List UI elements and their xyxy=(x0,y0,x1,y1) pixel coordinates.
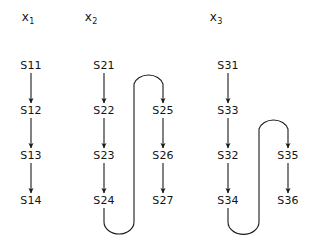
column-title-x2: x2 xyxy=(85,11,98,26)
node-S32: S32 xyxy=(216,150,240,162)
node-S25: S25 xyxy=(151,105,175,117)
column-title-x2-subscript: 2 xyxy=(92,18,98,27)
node-S14: S14 xyxy=(19,195,43,207)
node-S12: S12 xyxy=(19,105,43,117)
state-transition-diagram: x1 x2 x3 S11 S12 S13 S14 S21 S22 S23 S24… xyxy=(0,0,311,241)
node-S21: S21 xyxy=(92,60,116,72)
node-S34: S34 xyxy=(216,195,240,207)
node-S26: S26 xyxy=(151,150,175,162)
node-S11: S11 xyxy=(19,60,43,72)
column-title-x3: x3 xyxy=(210,11,223,26)
node-S36: S36 xyxy=(276,195,300,207)
node-S13: S13 xyxy=(19,150,43,162)
column-title-x3-subscript: 3 xyxy=(217,18,223,27)
node-S24: S24 xyxy=(92,195,116,207)
node-S27: S27 xyxy=(151,195,175,207)
edge-S34-S35 xyxy=(228,120,288,234)
node-S23: S23 xyxy=(92,150,116,162)
node-S35: S35 xyxy=(276,150,300,162)
node-S33: S33 xyxy=(216,105,240,117)
column-title-x1-subscript: 1 xyxy=(29,18,35,27)
node-S31: S31 xyxy=(216,60,240,72)
column-title-x1: x1 xyxy=(22,11,35,26)
node-S22: S22 xyxy=(92,105,116,117)
